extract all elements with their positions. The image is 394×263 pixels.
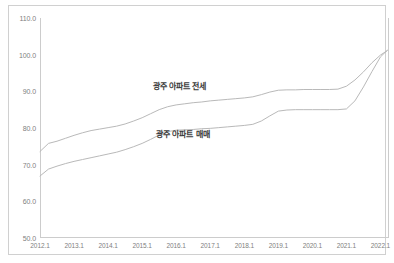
series-label: 광주 아파트 매매 (156, 128, 209, 139)
x-axis-tick-label: 2015.1 (133, 242, 152, 249)
y-axis-tick-label: 70.0 (23, 161, 36, 168)
x-axis-tick-label: 2013.1 (64, 242, 83, 249)
y-axis-tick-label: 50.0 (23, 235, 36, 242)
series-line (40, 50, 387, 176)
x-axis-tick-label: 2021.1 (337, 242, 356, 249)
x-axis-tick-label: 2018.1 (235, 242, 254, 249)
x-axis-tick-label: 2016.1 (167, 242, 186, 249)
series-lines (40, 18, 389, 238)
y-axis-tick-label: 90.0 (23, 88, 36, 95)
chart-frame: 50.060.070.080.090.0100.0110.0 2012.1201… (8, 5, 386, 255)
x-axis-tick-label: 2022.1 (371, 242, 390, 249)
x-axis-tick-label: 2020.1 (303, 242, 322, 249)
series-line (40, 51, 387, 152)
x-axis-tick-label: 2019.1 (269, 242, 288, 249)
x-axis-tick-label: 2014.1 (98, 242, 117, 249)
y-axis-tick-label: 60.0 (23, 198, 36, 205)
y-axis-tick-label: 100.0 (19, 51, 36, 58)
plot-area: 50.060.070.080.090.0100.0110.0 2012.1201… (40, 18, 389, 238)
x-axis-tick-label: 2012.1 (30, 242, 49, 249)
x-axis-tick-label: 2017.1 (201, 242, 220, 249)
y-axis-tick-label: 80.0 (23, 125, 36, 132)
y-axis-tick-label: 110.0 (20, 15, 37, 22)
series-label: 광주 아파트 전세 (153, 80, 206, 91)
